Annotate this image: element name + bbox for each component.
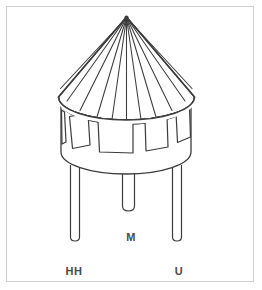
roof-group (59, 15, 195, 124)
legs-group (71, 163, 182, 241)
roof-apex-point (124, 15, 128, 19)
water-tank-illustration (0, 0, 262, 290)
label-m: M (126, 231, 136, 243)
right-leg (173, 163, 182, 241)
label-u: U (175, 265, 183, 277)
diagram-canvas: HH M U (0, 0, 262, 290)
tank-window-2 (98, 120, 133, 154)
label-hh: HH (66, 265, 83, 277)
center-leg (123, 172, 135, 211)
left-leg (71, 163, 80, 241)
